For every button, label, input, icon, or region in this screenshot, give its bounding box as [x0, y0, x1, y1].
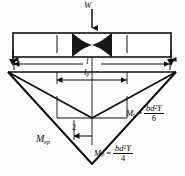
mp-denominator: 4	[119, 154, 127, 163]
figure-linework	[0, 0, 185, 176]
mp-subscript: P	[101, 152, 104, 158]
mr-fraction: bd2Y 6	[144, 104, 164, 123]
hinge-rotation-dimension	[74, 120, 92, 140]
mp-fraction: bd2Y 4	[113, 144, 133, 163]
mp-numerator: bd2Y	[113, 144, 133, 153]
mp-num-Y: Y	[126, 143, 131, 153]
mr-num-Y: Y	[157, 103, 162, 113]
mr-equals: =	[137, 109, 142, 118]
mr-denominator: 6	[150, 114, 158, 123]
span-label-l: l	[86, 57, 89, 66]
lp-subscript: p	[86, 71, 89, 77]
beam-bending-moment-figure: W l lp Mep 2 Mr = bd2Y 6 MP = bd2Y 4	[0, 0, 185, 176]
mp-equals: =	[106, 149, 111, 158]
load-label-W: W	[84, 1, 92, 10]
elastic-plastic-moment-label: Mep	[36, 134, 50, 145]
yield-moment-equation: Mr = bd2Y 6	[126, 104, 164, 123]
plastic-moment-equation: MP = bd2Y 4	[94, 144, 133, 163]
projection-lines	[57, 57, 127, 145]
mp-symbol: MP	[94, 149, 104, 159]
mr-symbol: Mr	[126, 109, 135, 119]
plastic-length-label-lp: lp	[84, 68, 89, 78]
mep-subscript: ep	[44, 138, 50, 145]
hinge-rotation-label: 2	[72, 124, 76, 132]
mr-numerator: bd2Y	[144, 104, 164, 113]
mr-subscript: r	[133, 112, 135, 118]
